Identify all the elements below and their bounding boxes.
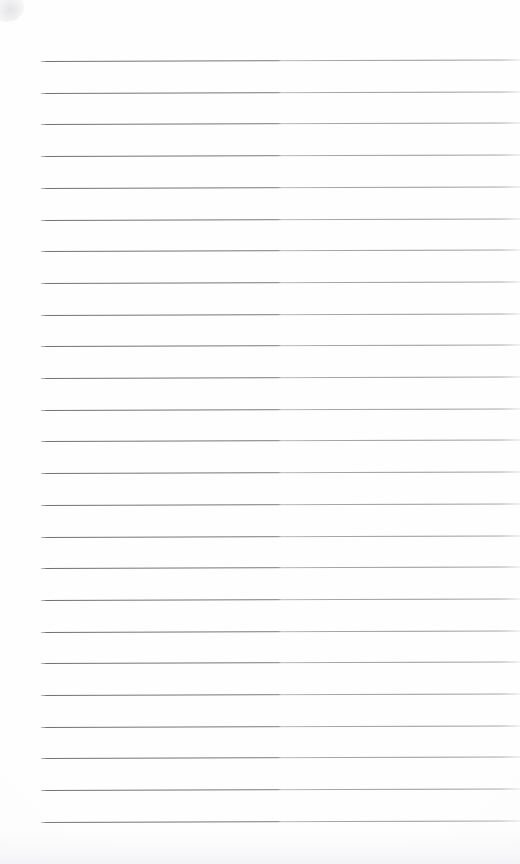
handwriting-layer (0, 0, 520, 864)
notebook-page (0, 0, 520, 864)
